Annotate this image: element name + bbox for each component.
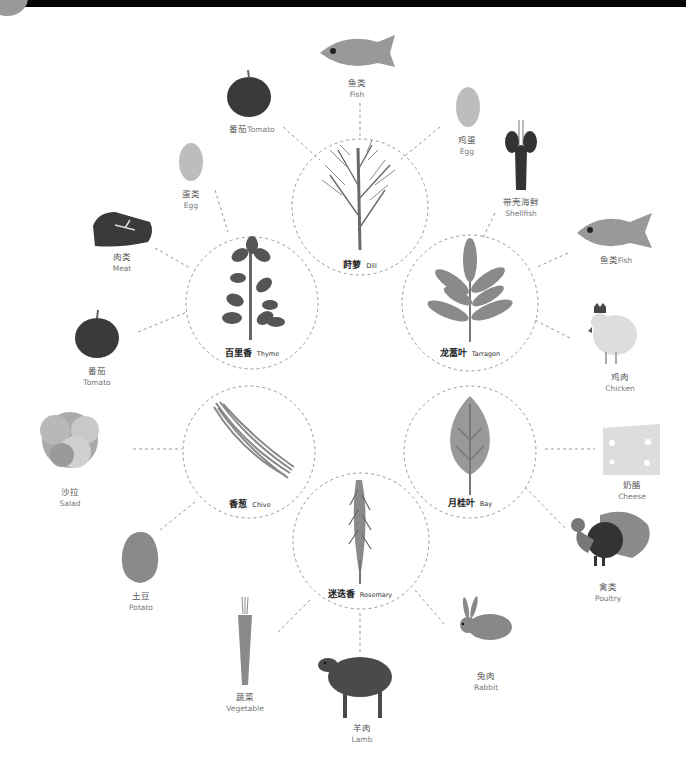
food-label-chicken: 鸡肉Chicken (605, 372, 635, 394)
herb-label-thyme: 百里香Thyme (225, 346, 279, 359)
tarragon-icon (425, 238, 515, 342)
food-label-lamb: 羊肉Lamb (352, 723, 373, 745)
tomato-icon-top (227, 70, 271, 117)
food-label-egg-left: 蛋类Egg (182, 189, 200, 211)
fish-icon-top (320, 35, 395, 67)
egg-icon-left (179, 143, 203, 181)
poultry-icon (571, 512, 650, 566)
food-label-vegetable: 蔬菜Vegetable (226, 692, 264, 714)
food-label-salad: 沙拉Salad (60, 487, 81, 509)
salad-icon (40, 412, 99, 468)
chicken-icon (588, 303, 637, 364)
food-label-tomato-top: 番茄Tomato (229, 124, 274, 135)
fish-icon-right (577, 213, 652, 248)
food-label-cheese: 奶酪Cheese (618, 480, 646, 502)
herb-label-chive: 香葱Chive (229, 497, 270, 510)
herb-label-dill: 莳萝Dill (343, 258, 376, 271)
rabbit-icon (460, 596, 512, 640)
rosemary-icon (349, 480, 371, 584)
tomato-icon-left (75, 310, 119, 358)
food-label-rabbit: 兔肉Rabbit (474, 671, 498, 693)
bay-icon (450, 396, 490, 495)
dill-icon (322, 140, 395, 250)
herb-label-bay: 月桂叶Bay (448, 496, 492, 509)
food-label-fish-top: 鱼类Fish (348, 78, 366, 100)
cheese-icon (603, 424, 660, 475)
food-label-meat: 肉类Meat (113, 252, 132, 274)
egg-icon-right (456, 87, 480, 127)
potato-icon (122, 532, 158, 583)
thyme-icon (222, 236, 285, 340)
food-label-potato: 土豆Potato (129, 591, 153, 613)
carrot-icon (238, 597, 252, 685)
food-label-poultry: 禽类Poultry (595, 582, 621, 604)
food-label-fish-right: 鱼类Fish (600, 255, 633, 266)
lamb-icon (318, 657, 392, 718)
food-label-tomato-left: 番茄Tomato (83, 366, 110, 388)
herb-label-tarragon: 龙蒿叶Tarragon (440, 346, 500, 359)
shellfish-icon (505, 120, 537, 190)
herb-label-rosemary: 迷迭香Rosemary (328, 587, 392, 600)
food-label-egg-right: 鸡蛋Egg (458, 135, 476, 157)
food-label-shellfish: 带壳海鲜Shellfish (503, 197, 539, 219)
chive-icon (214, 402, 294, 478)
meat-icon (93, 212, 152, 247)
